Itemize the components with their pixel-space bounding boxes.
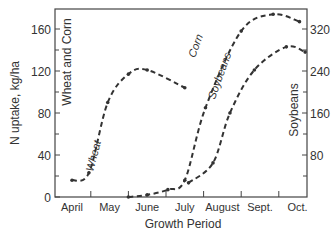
left-tick-label: 80 (38, 107, 52, 121)
right-axis-label: Soybeans (287, 83, 301, 136)
left-tick-label: 40 (38, 149, 52, 163)
corn-data-point (166, 188, 170, 192)
wheat-data-point (183, 86, 187, 90)
wheat-data-point (106, 101, 110, 105)
right-tick-label: 320 (310, 23, 330, 37)
corn-data-point (183, 178, 187, 182)
wheat-data-point (145, 68, 149, 72)
chart-labels: N uptake, kg/ha Wheat and Corn Soybeans … (8, 18, 301, 231)
month-label: August (205, 201, 239, 213)
x-axis-label: Growth Period (145, 217, 222, 231)
y-axis-label: N uptake, kg/ha (8, 61, 22, 145)
series-lines (70, 13, 307, 199)
wheat-data-point (70, 178, 74, 182)
month-label: Oct. (288, 201, 308, 213)
soybeans-data-point (303, 50, 307, 54)
soybeans-series-label: Soybeans (205, 50, 233, 101)
soybeans-data-point (211, 161, 215, 165)
corn-data-point (271, 13, 275, 17)
left-tick-label: 0 (44, 191, 51, 205)
corn-data-point (239, 29, 243, 33)
month-label: April (61, 201, 83, 213)
month-label: June (135, 201, 159, 213)
corn-line (128, 14, 299, 197)
wheat-data-point (127, 72, 131, 76)
corn-data-point (127, 195, 131, 199)
soybeans-data-point (253, 68, 257, 72)
month-label: May (99, 201, 120, 213)
month-label: Sept. (247, 201, 273, 213)
wheat-series-label: Wheat (83, 138, 103, 173)
inner-left-axis-label: Wheat and Corn (60, 18, 74, 105)
left-tick-label: 120 (31, 65, 51, 79)
right-tick-label: 160 (310, 107, 330, 121)
left-tick-label: 160 (31, 23, 51, 37)
soybeans-data-point (285, 45, 289, 49)
right-tick-label: 240 (310, 65, 330, 79)
corn-data-point (298, 20, 302, 24)
right-tick-label: 80 (310, 149, 324, 163)
n-uptake-chart: 0408012016080160240320AprilMayJuneJulyAu… (0, 0, 336, 237)
axes: 0408012016080160240320AprilMayJuneJulyAu… (31, 23, 330, 214)
corn-series-label: Corn (186, 32, 205, 59)
corn-data-point (204, 106, 208, 110)
soybeans-data-point (187, 181, 191, 185)
corn-data-point (145, 193, 149, 197)
soybeans-data-point (228, 111, 232, 115)
month-label: July (175, 201, 195, 213)
